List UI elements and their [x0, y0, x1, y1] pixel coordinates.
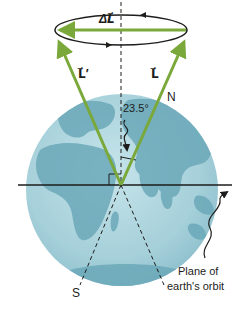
plane-label-line1: Plane of	[178, 266, 218, 277]
south-label: S	[72, 287, 80, 299]
L-label: L⃗	[151, 68, 159, 80]
earth-globe	[26, 94, 218, 290]
north-label: N	[167, 91, 176, 103]
angle-label: 23.5°	[123, 103, 149, 114]
ellipse-arrow-top-icon	[140, 12, 146, 18]
plane-label-line2: earth's orbit	[167, 281, 224, 292]
delta-L-label: ΔL⃗	[99, 13, 115, 25]
L-prime-label: L⃗′	[78, 68, 89, 80]
ellipse-arrow-bottom-icon	[106, 42, 112, 48]
